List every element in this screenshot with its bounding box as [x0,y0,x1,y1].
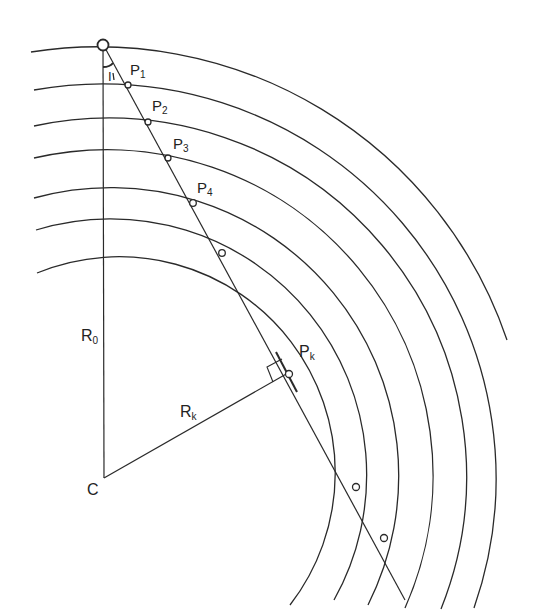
point-label-p2: P2 [152,98,168,116]
center-label: C [87,482,99,498]
radius-label-r0: R0 [81,328,98,346]
layer-arc-4 [34,188,399,605]
point-label-p1: P1 [130,62,146,80]
concentric-layers [31,47,507,609]
point-label-p4: P4 [197,180,213,198]
layer-arc-0 [31,47,507,340]
layer-arc-3 [34,150,433,608]
point-pk-marker [286,371,293,378]
point-p2-marker [145,119,151,125]
point-p5-marker [219,250,226,257]
ray-line [104,46,405,600]
point-exit-1-marker [353,484,360,491]
point-p1-marker [125,82,131,88]
angle-tick [113,73,114,80]
radius-rk-line [104,373,288,478]
point-p3-marker [165,155,171,161]
layer-arc-2 [34,118,467,609]
point-exit-2-marker [381,535,388,542]
ray-path-diagram [0,0,537,614]
layer-arc-5 [36,219,367,600]
radius-label-rk: Rk [180,404,197,422]
angle-label: I [108,70,112,83]
angle-arc [103,63,113,67]
entry-point-marker [98,40,109,51]
point-p4-marker [190,200,197,207]
radius-r0-line [103,48,104,478]
point-label-p3: P3 [173,136,189,154]
point-label-pk: Pk [299,344,315,362]
